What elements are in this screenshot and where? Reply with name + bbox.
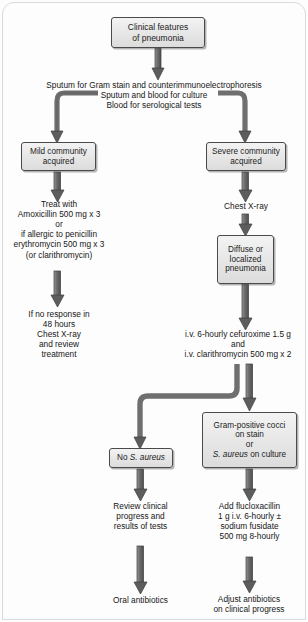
node-gram-line1: Gram-positive cocci <box>206 421 293 431</box>
node-mild-community-acquired[interactable]: Mild community acquired <box>21 142 96 171</box>
label-investigations: Sputum for Gram stain and counterimmunoe… <box>0 80 308 110</box>
node-mild-line2: acquired <box>25 157 92 167</box>
flowchart-page: Clinical features of pneumonia Mild comm… <box>0 0 308 622</box>
node-mild-line1: Mild community <box>25 147 92 157</box>
label-review-clinical: Review clinical progress and results of … <box>90 501 191 531</box>
label-no-response-line5: treatment <box>0 349 118 359</box>
label-investigations-line2: Sputum and blood for culture <box>0 90 308 100</box>
label-flucloxacillin-line3: sodium fusidate <box>196 521 303 531</box>
node-severe-line2: acquired <box>210 157 282 167</box>
label-iv-line3: i.v. clarithromycin 500 mg x 2 <box>168 349 308 359</box>
label-investigations-line1: Sputum for Gram stain and counterimmunoe… <box>0 80 308 90</box>
label-flucloxacillin-line1: Add flucloxacillin <box>196 501 303 511</box>
node-gram-line3: or <box>206 440 293 450</box>
label-iv-line1: i.v. 6-hourly cefuroxime 1.5 g <box>168 329 308 339</box>
label-flucloxacillin-line2: 1 g i.v. 6-hourly ± <box>196 511 303 521</box>
label-review-line3: results of tests <box>90 521 191 531</box>
label-mild-treatment-line1: Treat with <box>0 199 118 209</box>
label-adjust-line2: on clinical progress <box>190 604 308 614</box>
label-oral-antibiotics: Oral antibiotics <box>90 595 191 605</box>
label-chest-xray-line1: Chest X-ray <box>196 201 296 211</box>
label-adjust-line1: Adjust antibiotics <box>190 594 308 604</box>
label-mild-treatment: Treat with Amoxicillin 500 mg x 3 or if … <box>0 199 118 260</box>
node-diffuse-line2: localized <box>221 255 270 265</box>
label-iv-line2: and <box>168 339 308 349</box>
label-mild-treatment-line6: (or clarithromycin) <box>0 250 118 260</box>
label-add-flucloxacillin: Add flucloxacillin 1 g i.v. 6-hourly ± s… <box>196 501 303 541</box>
label-investigations-line3: Blood for serological tests <box>0 100 308 110</box>
node-gram-positive-cocci[interactable]: Gram-positive cocci on stain or S. aureu… <box>202 412 297 468</box>
label-mild-treatment-line4: if allergic to penicillin <box>0 229 118 239</box>
node-gram-line4: S. aureus on culture <box>206 450 293 460</box>
label-no-response-line1: If no response in <box>0 309 118 319</box>
node-clinical-features[interactable]: Clinical features of pneumonia <box>111 17 205 48</box>
node-clinical-features-line2: of pneumonia <box>115 33 201 43</box>
node-diffuse-line1: Diffuse or <box>221 245 270 255</box>
label-no-response-line2: 48 hours <box>0 319 118 329</box>
label-mild-treatment-line3: or <box>0 219 118 229</box>
label-adjust-antibiotics: Adjust antibiotics on clinical progress <box>190 594 308 614</box>
node-no-s-aureus-label: No S. aureus <box>113 453 169 463</box>
label-flucloxacillin-line4: 500 mg 8-hourly <box>196 531 303 541</box>
label-mild-treatment-line2: Amoxicillin 500 mg x 3 <box>0 209 118 219</box>
node-gram-line2: on stain <box>206 430 293 440</box>
label-iv-therapy: i.v. 6-hourly cefuroxime 1.5 g and i.v. … <box>168 329 308 359</box>
label-oral-antibiotics-line1: Oral antibiotics <box>90 595 191 605</box>
node-diffuse-localized-pneumonia[interactable]: Diffuse or localized pneumonia <box>217 235 274 284</box>
label-mild-treatment-line5: erythromycin 500 mg x 3 <box>0 239 118 249</box>
gram-line4-rest: on culture <box>248 450 286 459</box>
label-review-line1: Review clinical <box>90 501 191 511</box>
label-chest-xray: Chest X-ray <box>196 201 296 211</box>
node-severe-line1: Severe community <box>210 147 282 157</box>
label-review-line2: progress and <box>90 511 191 521</box>
label-mild-no-response: If no response in 48 hours Chest X-ray a… <box>0 309 118 360</box>
label-no-response-line3: Chest X-ray <box>0 329 118 339</box>
no-s-aureus-prefix: No <box>117 453 130 462</box>
node-no-s-aureus[interactable]: No S. aureus <box>109 448 173 468</box>
gram-organism: S. aureus <box>213 450 248 459</box>
no-s-aureus-organism: S. aureus <box>130 453 165 462</box>
node-clinical-features-line1: Clinical features <box>115 22 201 32</box>
label-no-response-line4: and review <box>0 339 118 349</box>
node-severe-community-acquired[interactable]: Severe community acquired <box>206 142 286 171</box>
node-diffuse-line3: pneumonia <box>221 264 270 274</box>
